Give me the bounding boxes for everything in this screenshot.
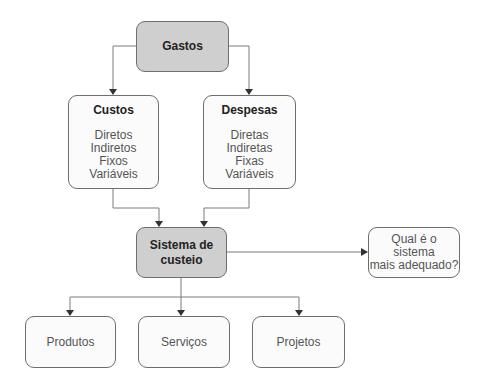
node-question: Qual é o sistema mais adequado? (368, 227, 460, 278)
despesas-item: Indiretas (225, 142, 273, 155)
node-projetos: Projetos (252, 316, 345, 368)
sistema-line1: Sistema de (150, 238, 213, 253)
projetos-label: Projetos (276, 336, 320, 349)
node-sistema-custeio: Sistema de custeio (136, 227, 227, 278)
arrow-custos-sistema (113, 189, 159, 226)
node-produtos: Produtos (25, 316, 116, 368)
question-line1: Qual é o sistema (369, 233, 459, 259)
question-line2: mais adequado? (370, 259, 459, 272)
node-gastos-label: Gastos (162, 40, 203, 53)
custos-item: Diretos (89, 129, 137, 142)
custos-item: Variáveis (89, 168, 137, 181)
arrow-gastos-despesas (229, 46, 249, 94)
node-custos-title: Custos (93, 104, 134, 117)
node-gastos: Gastos (136, 21, 229, 72)
custos-items: Diretos Indiretos Fixos Variáveis (89, 129, 137, 181)
arrow-gastos-custos (113, 46, 136, 94)
despesas-item: Variáveis (225, 168, 273, 181)
custos-item: Fixos (89, 155, 137, 168)
node-custos: Custos Diretos Indiretos Fixos Variáveis (68, 95, 159, 189)
despesas-item: Diretas (225, 129, 273, 142)
despesas-items: Diretas Indiretas Fixas Variáveis (225, 129, 273, 181)
branch-outputs (70, 297, 299, 315)
node-servicos: Serviços (138, 316, 230, 368)
servicos-label: Serviços (161, 336, 207, 349)
custos-item: Indiretos (89, 142, 137, 155)
node-despesas-title: Despesas (221, 104, 277, 117)
arrow-despesas-sistema (204, 189, 249, 226)
node-despesas: Despesas Diretas Indiretas Fixas Variáve… (203, 95, 296, 189)
sistema-line2: custeio (160, 253, 202, 268)
produtos-label: Produtos (46, 336, 94, 349)
despesas-item: Fixas (225, 155, 273, 168)
